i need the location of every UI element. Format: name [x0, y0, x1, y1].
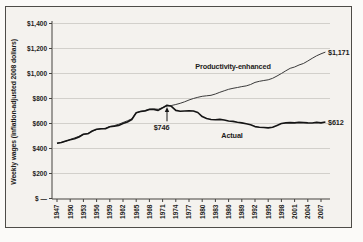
x-tick-label: 1980 — [199, 204, 206, 219]
y-tick-label: $200 — [33, 170, 48, 178]
x-tick-label: 1962 — [119, 204, 126, 219]
y-tick-label: $1,000 — [27, 70, 47, 78]
y-tick-label: $1,200 — [27, 45, 47, 53]
x-tick-label: 1959 — [106, 204, 113, 219]
end-label-productivity: $1,171 — [328, 48, 350, 57]
annotation-label: $746 — [154, 123, 170, 132]
end-label-actual: $612 — [328, 118, 344, 127]
x-tick-label: 1974 — [172, 204, 179, 219]
x-tick-label: 1968 — [146, 204, 153, 219]
series-line-actual — [57, 105, 325, 143]
annotation-arrowhead — [165, 107, 169, 112]
x-tick-label: 1998 — [278, 204, 285, 219]
x-tick-label: 2007 — [317, 204, 324, 219]
y-tick-label: $600 — [33, 120, 48, 128]
x-tick-label: 1956 — [93, 204, 100, 219]
x-tick-label: 1986 — [225, 204, 232, 219]
x-tick-label: 1971 — [159, 204, 166, 219]
y-tick-label: $1,400 — [27, 20, 47, 28]
x-tick-label: 1995 — [265, 204, 272, 219]
x-tick-label: 1989 — [238, 204, 245, 219]
x-tick-label: 2001 — [291, 204, 298, 219]
x-tick-label: 1947 — [53, 204, 60, 219]
y-tick-label: $800 — [33, 95, 48, 103]
x-tick-label: 1977 — [185, 204, 192, 219]
x-tick-label: 1992 — [251, 204, 258, 219]
series-label-productivity: Productivity-enhanced — [195, 62, 271, 71]
plot-area: $ —$200$400$600$800$1,000$1,200$1,400194… — [0, 0, 363, 242]
series-label-actual: Actual — [221, 131, 243, 140]
y-tick-label: $ — — [35, 195, 47, 203]
x-tick-label: 1953 — [80, 204, 87, 219]
y-tick-label: $400 — [33, 145, 48, 153]
x-tick-label: 2004 — [304, 204, 311, 219]
x-tick-label: 1950 — [67, 204, 74, 219]
x-tick-label: 1983 — [212, 204, 219, 219]
x-tick-label: 1965 — [133, 204, 140, 219]
